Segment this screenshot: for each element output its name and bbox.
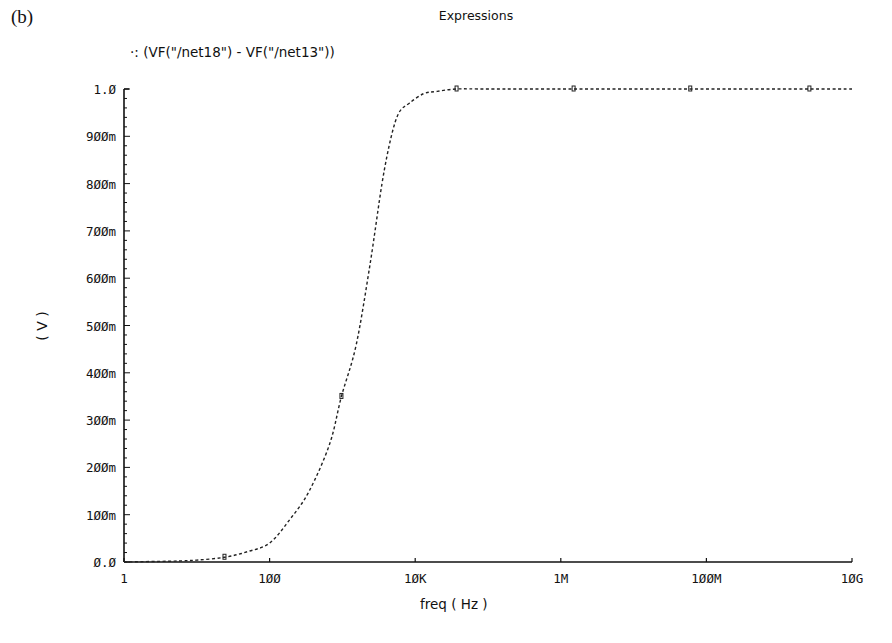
y-tick-label: 5ØØm [86, 319, 116, 334]
ticks: Ø.Ø1ØØm2ØØm3ØØm4ØØm5ØØm6ØØm7ØØm8ØØm9ØØm1… [86, 82, 863, 586]
plot-area: Ø.Ø1ØØm2ØØm3ØØm4ØØm5ØØm6ØØm7ØØm8ØØm9ØØm1… [0, 0, 892, 643]
x-tick-label: 1ØK [404, 571, 427, 586]
x-tick-label: 1ØØM [691, 571, 721, 586]
y-tick-label: 9ØØm [86, 129, 116, 144]
y-tick-label: 2ØØm [86, 460, 116, 475]
x-tick-label: 1ØG [841, 571, 864, 586]
data-series [124, 86, 852, 562]
y-tick-label: 1.Ø [93, 82, 116, 97]
series-marker [572, 86, 575, 91]
x-tick-label: 1ØØ [258, 571, 281, 586]
series-marker [455, 86, 458, 91]
y-tick-label: 4ØØm [86, 366, 116, 381]
x-tick-label: 1M [553, 571, 568, 586]
y-tick-label: 6ØØm [86, 271, 116, 286]
y-tick-label: 7ØØm [86, 224, 116, 239]
x-tick-label: 1 [120, 571, 128, 586]
y-tick-label: 1ØØm [86, 508, 116, 523]
series-marker [808, 86, 811, 91]
series-line [124, 89, 852, 562]
axes [124, 89, 852, 562]
y-tick-label: 8ØØm [86, 177, 116, 192]
y-tick-label: Ø.Ø [93, 555, 116, 570]
y-tick-label: 3ØØm [86, 413, 116, 428]
